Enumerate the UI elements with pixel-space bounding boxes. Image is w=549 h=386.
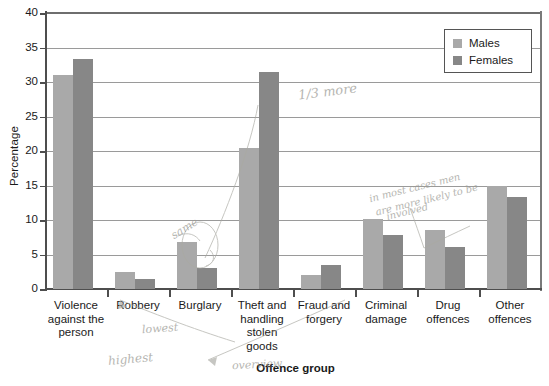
- x-tick-label-line: stolen: [224, 326, 300, 340]
- x-tick-label-line: Other: [472, 299, 548, 313]
- bar-males-7: [487, 186, 507, 290]
- y-tick-label: 0: [14, 283, 38, 295]
- x-tick-separator: [107, 290, 109, 297]
- y-tick-label: 25: [14, 111, 38, 123]
- x-tick-separator: [355, 290, 357, 297]
- x-tick-separator: [231, 290, 233, 297]
- legend-item-females: Females: [453, 52, 531, 69]
- legend-label-females: Females: [469, 55, 513, 67]
- y-tick-label: 5: [14, 249, 38, 261]
- bar-females-5: [383, 235, 403, 289]
- bar-males-0: [53, 75, 73, 289]
- x-tick-label-line: person: [38, 326, 114, 340]
- bar-males-5: [363, 219, 383, 289]
- legend-item-males: Males: [453, 35, 531, 52]
- bar-males-1: [115, 272, 135, 289]
- x-tick-label-line: offences: [472, 313, 548, 327]
- bar-females-4: [321, 265, 341, 289]
- legend-label-males: Males: [469, 38, 500, 50]
- x-tick-separator: [479, 290, 481, 297]
- x-tick-separator: [293, 290, 295, 297]
- legend-swatch-males: [453, 39, 462, 48]
- y-tick-label: 10: [14, 214, 38, 226]
- x-axis-title: Offence group: [0, 362, 549, 374]
- x-tick-label-7: Otheroffences: [472, 299, 548, 326]
- y-tick-label: 30: [14, 76, 38, 88]
- y-tick-label: 15: [14, 180, 38, 192]
- bar-chart: Percentage 0510152025303540 Violenceagai…: [0, 0, 549, 386]
- bar-females-6: [445, 247, 465, 289]
- bar-males-4: [301, 275, 321, 289]
- x-tick-separator: [417, 290, 419, 297]
- legend: Males Females: [444, 29, 532, 73]
- bar-females-3: [259, 72, 279, 289]
- bar-males-2: [177, 242, 197, 289]
- y-tick-label: 20: [14, 145, 38, 157]
- y-tick-label: 35: [14, 42, 38, 54]
- legend-swatch-females: [453, 56, 462, 65]
- x-tick-label-line: against the: [38, 313, 114, 327]
- y-tick-label: 40: [14, 7, 38, 19]
- x-tick-separator: [169, 290, 171, 297]
- bar-males-3: [239, 148, 259, 289]
- bar-females-2: [197, 268, 217, 289]
- x-tick-label-line: goods: [224, 340, 300, 354]
- bar-females-1: [135, 279, 155, 289]
- bar-females-0: [73, 59, 93, 289]
- bar-males-6: [425, 230, 445, 289]
- bar-females-7: [507, 197, 527, 289]
- annotation-lowest: lowest: [142, 321, 179, 336]
